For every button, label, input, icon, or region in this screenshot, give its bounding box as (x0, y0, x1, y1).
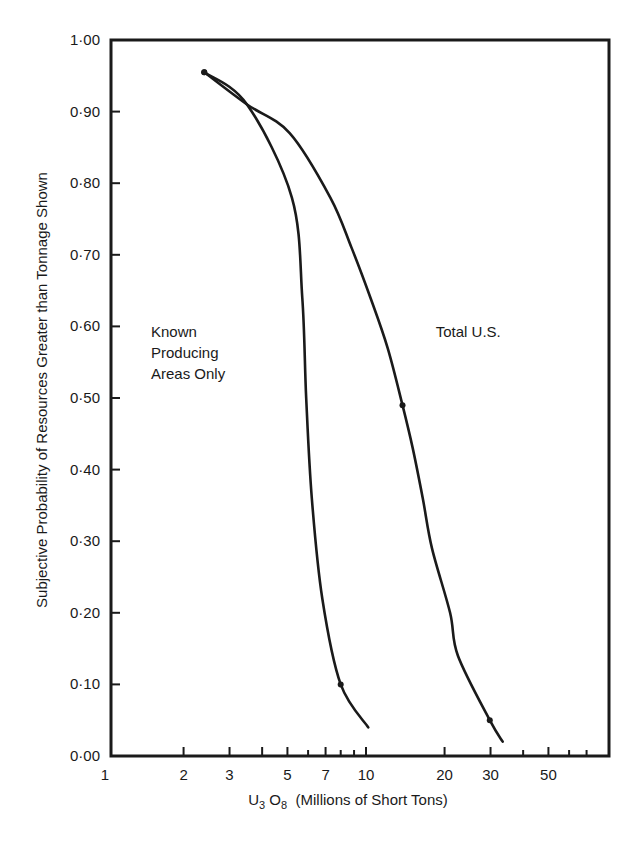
y-axis-label: Subjective Probability of Resources Grea… (33, 172, 50, 608)
known-producing-curve (204, 72, 368, 727)
data-point-marker (338, 681, 344, 687)
y-tick-label: 0·30 (70, 532, 100, 549)
y-tick-label: 0·50 (70, 389, 100, 406)
x-tick-label: 3 (225, 766, 233, 783)
y-tick-label: 0·00 (70, 747, 100, 764)
y-tick-label: 0·70 (70, 246, 100, 263)
y-axis-title: Subjective Probability of Resources Grea… (33, 172, 50, 608)
x-tick-label: 50 (540, 766, 557, 783)
y-tick-label: 0·90 (70, 103, 100, 120)
series-label: Areas Only (151, 365, 226, 382)
x-tick-label: 2 (179, 766, 187, 783)
x-tick-label: 20 (436, 766, 453, 783)
y-tick-label: 0·40 (70, 461, 100, 478)
y-tick-label: 0·10 (70, 675, 100, 692)
data-point-marker (487, 717, 493, 723)
series-label: Known (151, 323, 197, 340)
data-point-marker (201, 69, 207, 75)
x-tick-label: 7 (321, 766, 329, 783)
x-axis-ticks: 1235710203050 (101, 747, 587, 783)
chart: Subjective Probability of Resources Grea… (0, 0, 630, 845)
x-tick-label: 5 (283, 766, 291, 783)
y-tick-label: 0·80 (70, 174, 100, 191)
curves (201, 69, 502, 741)
y-tick-label: 1·00 (70, 31, 100, 48)
x-tick-label: 30 (482, 766, 499, 783)
total-us-curve (204, 72, 502, 741)
x-tick-label: 10 (358, 766, 375, 783)
series-label: Total U.S. (436, 323, 501, 340)
plot-frame (111, 40, 609, 756)
series-label: Producing (151, 344, 219, 361)
y-tick-label: 0·60 (70, 317, 100, 334)
x-axis-label: U3 O8 (Millions of Short Tons) (248, 791, 448, 811)
data-point-marker (400, 402, 406, 408)
x-tick-label: 1 (101, 766, 109, 783)
series-labels: KnownProducingAreas OnlyTotal U.S. (151, 323, 501, 382)
y-tick-label: 0·20 (70, 604, 100, 621)
